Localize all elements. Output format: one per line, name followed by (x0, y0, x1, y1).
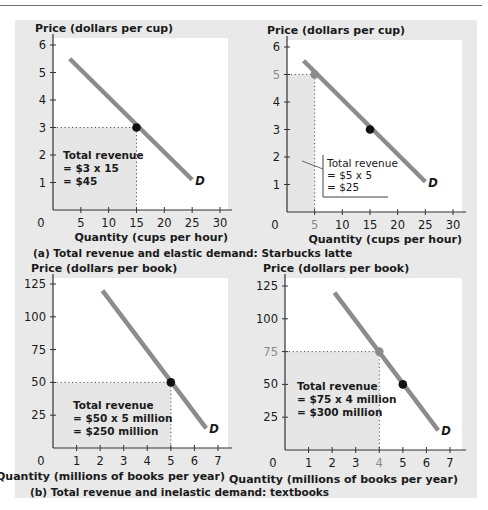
x-tick-label: 5 (77, 216, 84, 230)
x-tick-label: 4 (144, 454, 151, 468)
highlight-point (167, 378, 176, 387)
y-tick-label: 4 (39, 93, 46, 107)
x-tick-label: 3 (352, 456, 359, 470)
chart-textbooks-at-50: 25507510012501234567Price (dollars per b… (0, 262, 329, 498)
y-tick-label: 125 (256, 279, 278, 293)
revenue-text: Total revenue (297, 380, 378, 392)
x-tick-label: 4 (376, 456, 383, 470)
x-tick-label: 0 (37, 216, 44, 230)
y-tick-label: 2 (39, 148, 46, 162)
x-axis-label: Quantity (cups per hour) (308, 233, 462, 246)
x-tick-label: 15 (363, 218, 378, 232)
y-tick-label: 3 (273, 123, 280, 137)
demand-point (399, 380, 408, 389)
y-tick-label: 3 (39, 121, 46, 135)
highlight-point (132, 123, 141, 132)
x-tick-label: 0 (269, 456, 276, 470)
x-tick-label: 0 (271, 218, 278, 232)
x-tick-label: 2 (328, 456, 335, 470)
x-tick-label: 5 (399, 456, 406, 470)
x-tick-label: 1 (305, 456, 312, 470)
figure: 123456051015202530Price (dollars per cup… (0, 0, 488, 510)
y-tick-label: 125 (24, 277, 46, 291)
revenue-text: = $45 (63, 175, 97, 187)
y-tick-label: 5 (273, 68, 280, 82)
revenue-text: = $300 million (297, 406, 382, 418)
x-tick-label: 1 (73, 454, 80, 468)
y-tick-label: 50 (31, 375, 46, 389)
revenue-text: = $5 x 5 (327, 169, 372, 181)
y-tick-label: 75 (31, 343, 46, 357)
x-tick-label: 10 (101, 216, 116, 230)
demand-label: D (195, 174, 205, 188)
demand-label: D (209, 422, 219, 436)
y-tick-label: 1 (39, 176, 46, 190)
y-tick-label: 25 (263, 410, 278, 424)
y-axis-label: Price (dollars per cup) (35, 22, 173, 35)
revenue-text: = $75 x 4 million (297, 393, 396, 405)
x-tick-label: 25 (185, 216, 200, 230)
x-axis-label: Quantity (cups per hour) (74, 231, 228, 244)
y-tick-label: 75 (263, 345, 278, 359)
x-tick-label: 0 (37, 454, 44, 468)
demand-label: D (428, 176, 438, 190)
y-tick-label: 50 (263, 377, 278, 391)
x-tick-label: 2 (96, 454, 103, 468)
x-tick-label: 5 (167, 454, 174, 468)
revenue-text: Total revenue (73, 399, 154, 411)
chart-textbooks-at-75: 25507510012501234567Price (dollars per b… (229, 262, 466, 486)
x-tick-label: 15 (129, 216, 144, 230)
revenue-text: = $50 x 5 million (73, 412, 172, 424)
y-tick-label: 5 (39, 66, 46, 80)
x-tick-label: 30 (213, 216, 228, 230)
y-tick-label: 25 (31, 408, 46, 422)
revenue-area (287, 75, 315, 213)
x-tick-label: 25 (418, 218, 433, 232)
y-tick-label: 6 (39, 38, 46, 52)
y-tick-label: 6 (273, 40, 280, 54)
y-tick-label: 1 (273, 178, 280, 192)
x-tick-label: 6 (191, 454, 198, 468)
revenue-text: Total revenue (326, 157, 398, 169)
y-tick-label: 4 (273, 95, 280, 109)
y-tick-label: 100 (256, 312, 278, 326)
figure-caption: (b) Total revenue and inelastic demand: … (30, 486, 329, 498)
demand-label: D (441, 424, 451, 438)
revenue-text: = $3 x 15 (63, 162, 119, 174)
chart-latte-at-5: 123456051015202530Price (dollars per cup… (267, 24, 466, 246)
y-tick-label: 2 (273, 150, 280, 164)
demand-point (366, 125, 375, 134)
x-tick-label: 6 (423, 456, 430, 470)
revenue-text: Total revenue (63, 149, 144, 161)
x-axis-label: Quantity (millions of books per year) (0, 470, 225, 483)
x-axis-label: Quantity (millions of books per year) (229, 473, 458, 486)
highlight-point (375, 347, 384, 356)
x-tick-label: 7 (214, 454, 221, 468)
x-tick-label: 10 (335, 218, 350, 232)
highlight-point (310, 70, 319, 79)
y-axis-label: Price (dollars per book) (31, 262, 177, 275)
x-tick-label: 20 (390, 218, 405, 232)
x-tick-label: 20 (157, 216, 172, 230)
figure-caption: (a) Total revenue and elastic demand: St… (33, 247, 352, 259)
revenue-text: = $25 (327, 181, 359, 193)
x-tick-label: 3 (120, 454, 127, 468)
y-tick-label: 100 (24, 310, 46, 324)
y-axis-label: Price (dollars per cup) (267, 24, 405, 37)
revenue-text: = $250 million (73, 425, 158, 437)
x-tick-label: 7 (446, 456, 453, 470)
x-tick-label: 5 (311, 218, 318, 232)
x-tick-label: 30 (446, 218, 461, 232)
y-axis-label: Price (dollars per book) (263, 262, 409, 275)
